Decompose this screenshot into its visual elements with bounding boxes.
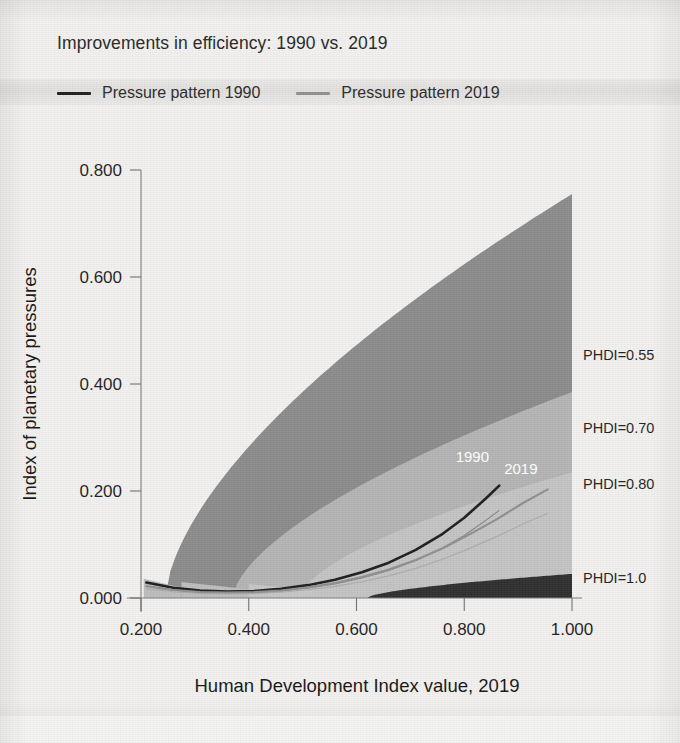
- band-layer: [144, 194, 572, 598]
- phdi-label-layer: PHDI=0.55PHDI=0.70PHDI=0.80PHDI=1.0: [583, 347, 654, 586]
- y-tick-label-1: 0.200: [79, 482, 122, 501]
- curve-annotation-2019: 2019: [504, 460, 537, 477]
- x-tick-label-4: 1.000: [551, 620, 594, 639]
- page-bottom-margin: [0, 716, 680, 743]
- phdi-label-phdi-0-70: PHDI=0.70: [583, 420, 654, 436]
- y-tick-label-4: 0.800: [79, 161, 122, 180]
- legend-item-1990[interactable]: Pressure pattern 1990: [57, 84, 260, 102]
- phdi-label-phdi-1-0: PHDI=1.0: [583, 570, 646, 586]
- phdi-label-phdi-0-80: PHDI=0.80: [583, 476, 654, 492]
- x-axis-title: Human Development Index value, 2019: [195, 675, 520, 696]
- x-tick-label-2: 0.600: [335, 620, 378, 639]
- x-tick-label-3: 0.800: [443, 620, 486, 639]
- chart-page: Improvements in efficiency: 1990 vs. 201…: [0, 0, 680, 743]
- x-tick-label-1: 0.400: [227, 620, 270, 639]
- curve-annotation-1990: 1990: [456, 448, 489, 465]
- y-tick-label-0: 0.000: [79, 589, 122, 608]
- phdi-label-phdi-0-55: PHDI=0.55: [583, 347, 654, 363]
- legend-line-swatch-2019-icon: [296, 92, 330, 95]
- y-tick-label-3: 0.600: [79, 268, 122, 287]
- chart-legend: Pressure pattern 1990 Pressure pattern 2…: [57, 80, 500, 106]
- legend-label-1990: Pressure pattern 1990: [102, 84, 260, 102]
- y-axis-title: Index of planetary pressures: [19, 267, 40, 500]
- legend-item-2019[interactable]: Pressure pattern 2019: [296, 84, 499, 102]
- legend-label-2019: Pressure pattern 2019: [341, 84, 499, 102]
- chart-plot: 19902019 0.0000.2000.4000.6000.8000.2000…: [0, 0, 680, 743]
- y-tick-label-2: 0.400: [79, 375, 122, 394]
- x-tick-label-0: 0.200: [120, 620, 163, 639]
- legend-line-swatch-1990-icon: [57, 92, 91, 95]
